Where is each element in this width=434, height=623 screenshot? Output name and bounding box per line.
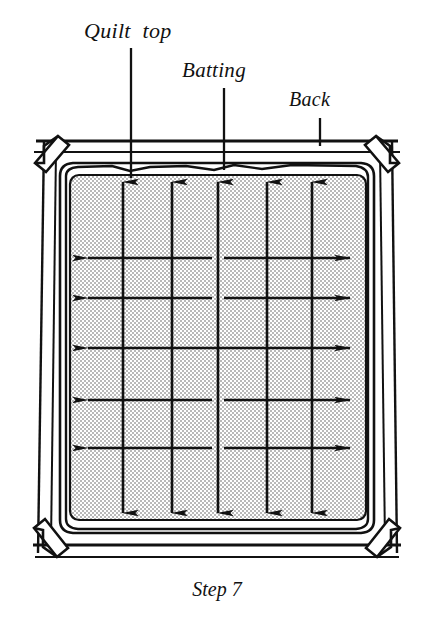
frame-rail-left-inner	[51, 150, 56, 543]
frame-rail-right-inner	[380, 150, 385, 543]
figure-caption: Step 7	[0, 578, 434, 601]
label-quilt-top: Quilt top	[84, 18, 172, 44]
frame-rail-right	[392, 140, 397, 553]
figure-canvas: Quilt top Batting Back Step 7	[0, 0, 434, 623]
frame-rail-left	[38, 140, 44, 553]
label-batting: Batting	[182, 58, 246, 83]
label-back: Back	[289, 88, 330, 111]
quilt-frame-diagram	[0, 0, 434, 623]
